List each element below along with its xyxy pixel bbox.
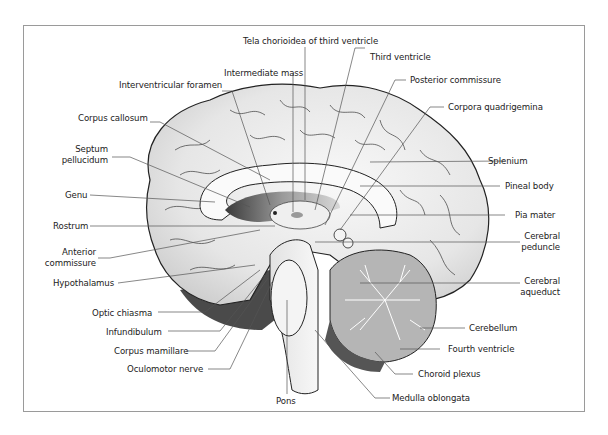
cerebellum-shape (330, 250, 436, 362)
label-splenium: Splenium (488, 156, 527, 167)
label-corpus-mamillare: Corpus mamillare (114, 346, 188, 357)
label-cerebral-aqueduct: Cerebralaqueduct (516, 276, 560, 298)
label-pia-mater: Pia mater (515, 210, 555, 221)
label-intermediate-mass: Intermediate mass (224, 68, 303, 79)
label-interventricular-foramen: Interventricular foramen (119, 80, 222, 91)
label-posterior-commissure: Posterior commissure (410, 75, 501, 86)
label-pineal-body: Pineal body (505, 181, 554, 192)
label-rostrum: Rostrum (53, 221, 88, 232)
label-oculomotor-nerve: Oculomotor nerve (127, 364, 203, 375)
label-hypothalamus: Hypothalamus (53, 278, 114, 289)
label-anterior-commissure: Anteriorcommissure (40, 247, 96, 269)
label-genu: Genu (65, 190, 87, 201)
intermediate-mass-shape (291, 212, 303, 218)
label-cerebral-peduncle: Cerebralpeduncle (520, 231, 560, 253)
label-cerebellum: Cerebellum (469, 323, 517, 334)
label-choroid-plexus: Choroid plexus (418, 369, 480, 380)
label-third-ventricle: Third ventricle (370, 52, 431, 63)
pons-shape (271, 260, 307, 336)
label-pons: Pons (276, 396, 296, 407)
label-infundibulum: Infundibulum (106, 327, 162, 338)
label-septum-pellucidum: Septumpellucidum (60, 144, 108, 166)
interventricular-foramen-dot (273, 211, 277, 215)
label-corpora-quadrigemina: Corpora quadrigemina (448, 102, 543, 113)
label-corpus-callosum: Corpus callosum (78, 113, 148, 124)
label-medulla-oblongata: Medulla oblongata (392, 393, 470, 404)
label-fourth-ventricle: Fourth ventricle (448, 344, 514, 355)
label-tela-chorioidea: Tela chorioidea of third ventricle (243, 36, 378, 47)
label-optic-chiasma: Optic chiasma (92, 308, 152, 319)
